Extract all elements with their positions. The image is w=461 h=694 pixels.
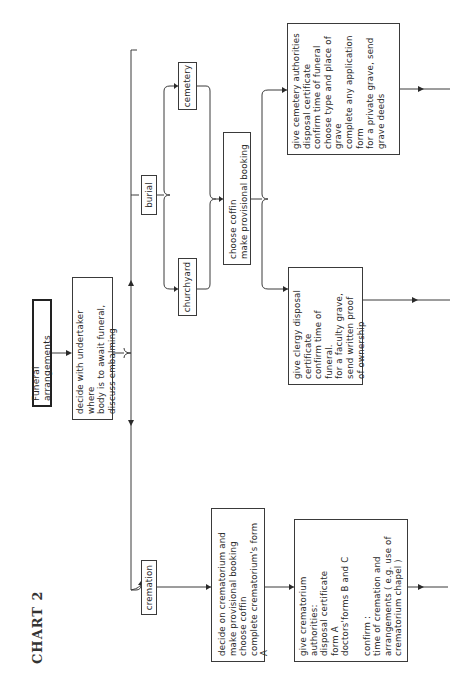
node-decide-undertaker: decide with undertaker where body is to …	[72, 277, 113, 420]
flowchart-canvas: CHART 2 Funeral arrangements decide with…	[0, 0, 461, 694]
node-cemetery-authorities: give cemetery authorities disposal certi…	[287, 23, 400, 155]
node-choose-coffin: choose coffin make provisional booking	[223, 132, 251, 265]
chart-title: CHART 2	[30, 590, 45, 664]
node-funeral-arrangements: Funeral arrangements	[32, 299, 52, 407]
node-burial: burial	[141, 175, 157, 215]
node-cemetery: cemetery	[178, 62, 197, 110]
node-decide-crematorium: decide on crematorium and make provision…	[211, 508, 265, 662]
node-clergy: give clergy disposal certificate confirm…	[288, 267, 363, 385]
node-crematorium-authorities: give crematorium authorities: disposal c…	[294, 519, 408, 662]
node-cremation: cremation	[141, 560, 157, 615]
node-churchyard: churchyard	[178, 258, 197, 316]
